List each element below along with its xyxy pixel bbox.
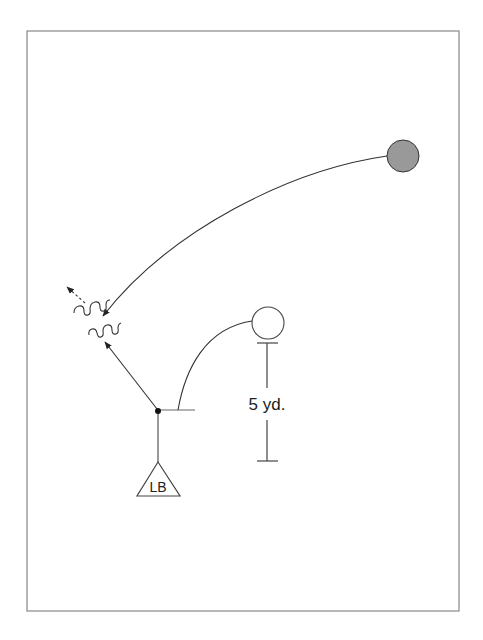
- diagram-frame: [27, 31, 459, 611]
- play-diagram: 5 yd. LB: [0, 0, 483, 640]
- lb-position-dot: [155, 408, 161, 414]
- open-player-circle: [252, 307, 284, 339]
- filled-player-circle: [387, 140, 419, 172]
- distance-label: 5 yd.: [249, 395, 286, 414]
- lb-label: LB: [149, 479, 166, 495]
